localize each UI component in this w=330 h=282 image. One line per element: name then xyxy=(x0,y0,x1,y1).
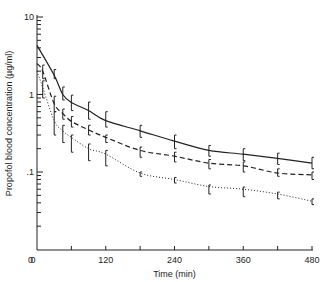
y-axis-title: Propofol blood concentration (µg/ml) xyxy=(4,51,14,196)
error-bar xyxy=(106,112,108,127)
error-bar xyxy=(71,117,73,128)
y-tick-label: 1 xyxy=(29,90,34,100)
error-bar xyxy=(71,135,73,152)
error-bar xyxy=(63,87,65,100)
x-tick-label: 120 xyxy=(98,255,113,265)
error-bar xyxy=(175,177,177,183)
error-bar xyxy=(243,187,245,197)
error-bar xyxy=(312,157,314,169)
error-bar xyxy=(209,159,211,168)
error-bar xyxy=(106,135,108,143)
error-bar xyxy=(43,81,45,98)
concentration-time-chart: 101.10 0120240360480 Time (min) Propofol… xyxy=(0,0,330,282)
x-tick-label: 360 xyxy=(236,255,251,265)
error-bar xyxy=(63,125,65,142)
x-tick-label: 0 xyxy=(30,255,35,265)
x-axis-title: Time (min) xyxy=(153,269,196,279)
error-bar xyxy=(312,199,314,205)
error-bar xyxy=(54,96,56,111)
error-bar xyxy=(43,65,45,79)
error-bar xyxy=(140,172,142,176)
y-tick-label: 10 xyxy=(24,12,34,22)
plot-series xyxy=(37,45,314,204)
error-bar xyxy=(312,172,314,180)
error-bar xyxy=(89,144,91,161)
error-bar xyxy=(243,162,245,172)
error-bar xyxy=(106,150,108,165)
x-tick-label: 480 xyxy=(304,255,319,265)
error-bar xyxy=(278,192,280,199)
x-tick-label: 240 xyxy=(167,255,182,265)
y-tick-label: .1 xyxy=(26,167,34,177)
error-bar xyxy=(140,147,142,157)
x-axis-ticks: 0120240360480 xyxy=(30,246,319,265)
axes: 101.10 0120240360480 xyxy=(24,12,320,265)
